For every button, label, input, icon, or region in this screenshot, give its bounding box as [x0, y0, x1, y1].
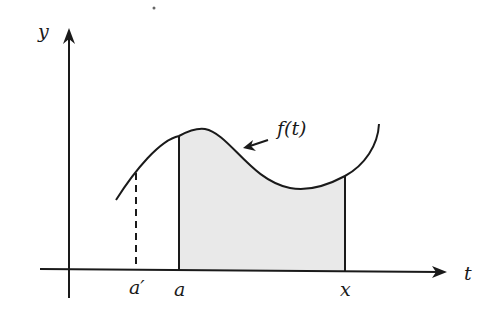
a-prime-label: a′ [129, 278, 145, 297]
curve-label: f(t) [277, 119, 307, 138]
t-axis-label: t [464, 264, 472, 283]
stray-dot [153, 7, 156, 10]
shaded-area [179, 129, 345, 271]
x-label: x [340, 280, 351, 299]
y-axis-label: y [38, 22, 49, 41]
area-under-curve-diagram [0, 0, 493, 318]
a-label: a [174, 280, 185, 299]
